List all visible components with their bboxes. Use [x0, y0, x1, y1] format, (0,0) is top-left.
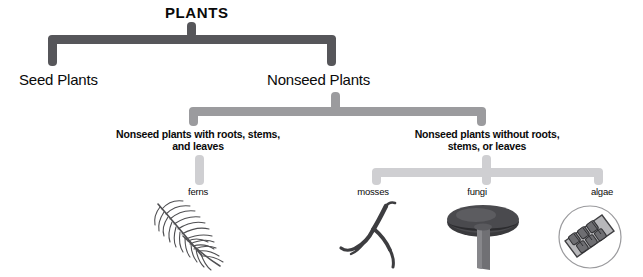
ferns-stem [195, 155, 204, 185]
level3-right-leg [594, 171, 603, 185]
level2-left-leg [189, 110, 198, 126]
label-ferns: ferns [163, 186, 233, 197]
algae-cells-microscope-illustration [556, 203, 624, 271]
label-nonseed-plants: Nonseed Plants [267, 71, 370, 88]
diagram-title: PLANTS [165, 4, 229, 21]
label-fungi: fungi [451, 186, 503, 197]
level2-right-leg [477, 110, 486, 126]
level3-middle-leg [482, 171, 491, 185]
level1-right-leg [327, 38, 336, 66]
level1-left-leg [48, 38, 57, 66]
level3-left-leg [372, 171, 381, 185]
fern-frond-illustration [150, 198, 240, 277]
level2-bracket-bar [189, 107, 486, 116]
moss-strand-illustration [338, 200, 404, 272]
label-mosses: mosses [338, 186, 408, 197]
label-algae: algae [570, 186, 634, 197]
mushroom-illustration [440, 200, 526, 274]
level1-bracket-bar [48, 35, 336, 44]
label-seed-plants: Seed Plants [19, 71, 98, 88]
label-nonseed-with-parts: Nonseed plants with roots, stems, and le… [113, 128, 283, 152]
label-nonseed-without-parts: Nonseed plants without roots, stems, or … [401, 128, 573, 152]
plant-classification-diagram: PLANTS Seed Plants Nonseed Plants Nonsee… [0, 0, 643, 277]
